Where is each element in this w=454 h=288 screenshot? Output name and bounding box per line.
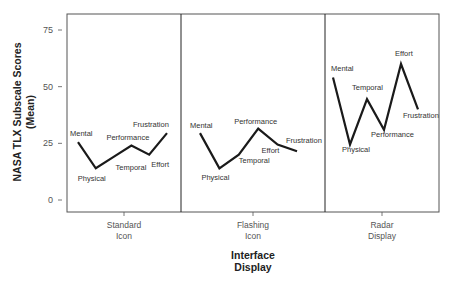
point-label-frustration: Frustration <box>133 120 169 129</box>
y-axis: 0255075 <box>43 25 62 205</box>
point-label-frustration: Frustration <box>286 136 322 145</box>
point-label-performance: Performance <box>106 133 149 142</box>
point-label-mental: Mental <box>331 64 354 73</box>
x-category-label: Flashing <box>237 220 269 230</box>
x-axis: StandardIconFlashingIconRadarDisplay <box>107 212 397 241</box>
point-label-mental: Mental <box>190 121 213 130</box>
panel-flashing-icon: MentalPhysicalTemporalPerformanceEffortF… <box>190 117 322 183</box>
x-axis-title: Display <box>234 261 272 273</box>
point-label-temporal: Temporal <box>239 156 270 165</box>
plot-frame <box>67 14 439 212</box>
x-category-label: Radar <box>370 220 393 230</box>
y-tick-label: 0 <box>48 195 53 205</box>
point-label-performance: Performance <box>371 130 414 139</box>
panel-radar-display: MentalPhysicalTemporalPerformanceEffortF… <box>331 49 439 154</box>
faceted-line-chart: 0255075 MentalPhysicalTemporalPerformanc… <box>0 0 454 288</box>
point-label-temporal: Temporal <box>352 83 383 92</box>
point-label-physical: Physical <box>342 145 370 154</box>
point-label-frustration: Frustration <box>403 111 439 120</box>
point-label-physical: Physical <box>201 173 229 182</box>
point-label-effort: Effort <box>395 49 414 58</box>
point-label-mental: Mental <box>70 129 93 138</box>
x-category-label: Standard <box>107 220 142 230</box>
y-axis-title: NASA TLX Subscale Scores <box>11 42 23 181</box>
point-label-effort: Effort <box>151 160 170 169</box>
x-category-label: Display <box>368 231 397 241</box>
y-axis-title: (Mean) <box>24 95 36 129</box>
panel-standard-icon: MentalPhysicalTemporalPerformanceEffortF… <box>70 120 170 183</box>
y-tick-label: 25 <box>43 138 53 148</box>
x-axis-title: Interface <box>231 249 275 261</box>
point-label-physical: Physical <box>78 174 106 183</box>
point-label-effort: Effort <box>262 146 281 155</box>
x-category-label: Icon <box>245 231 261 241</box>
point-label-temporal: Temporal <box>116 163 147 172</box>
x-category-label: Icon <box>116 231 132 241</box>
point-label-performance: Performance <box>234 117 277 126</box>
y-tick-label: 75 <box>43 25 53 35</box>
y-tick-label: 50 <box>43 82 53 92</box>
chart-panels: MentalPhysicalTemporalPerformanceEffortF… <box>67 14 439 212</box>
